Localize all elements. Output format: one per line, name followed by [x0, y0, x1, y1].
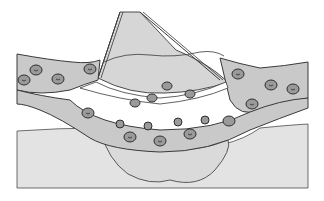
vessel-drawing [0, 0, 324, 201]
illustration [0, 0, 324, 201]
funnel-upper [98, 12, 228, 93]
